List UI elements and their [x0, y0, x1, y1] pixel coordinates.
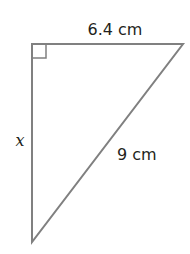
hypotenuse-label: 9 cm: [117, 145, 157, 164]
triangle-diagram: 6.4 cm x 9 cm: [0, 0, 190, 254]
right-angle-marker: [32, 44, 46, 58]
top-side-label: 6.4 cm: [88, 20, 143, 39]
left-side-label: x: [15, 131, 24, 150]
right-triangle: [32, 44, 183, 242]
